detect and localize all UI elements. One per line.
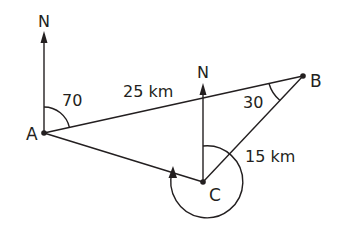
point-a [41,130,47,136]
point-label-a: A [26,124,38,144]
north-label-a: N [38,12,50,31]
north-arrow-c-icon [200,83,207,95]
angle-arc-b [269,84,280,101]
point-label-c: C [209,185,221,205]
reflex-angle-arc-c [171,146,243,218]
distance-label-ab: 25 km [123,82,173,101]
side-ac [44,133,203,182]
side-bc [203,76,303,182]
angle-label-a: 70 [62,91,82,110]
north-label-c: N [197,63,209,82]
point-c [200,179,206,185]
side-ab [44,76,303,133]
north-arrow-a-icon [41,31,48,43]
angle-arc-a [44,107,69,127]
point-label-b: B [310,71,322,91]
angle-label-b: 30 [243,93,263,112]
bearing-diagram: N N 70 30 A B C 25 km 15 km [0,0,343,237]
point-b [300,73,306,79]
distance-label-bc: 15 km [245,147,295,166]
